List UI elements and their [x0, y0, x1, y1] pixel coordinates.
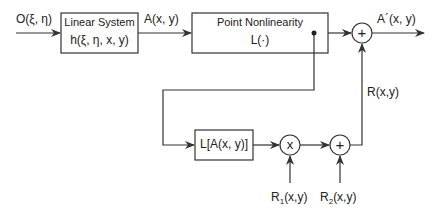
r1-base: R: [271, 190, 280, 204]
linear-system-title: Linear System: [61, 16, 138, 29]
r-feedback-arrow: [350, 44, 362, 145]
intermediate-label: A(x, y): [144, 12, 179, 26]
r2-args: (x,y): [333, 190, 356, 204]
point-nonlinearity-title: Point Nonlinearity: [192, 16, 328, 29]
r1-args: (x,y): [284, 190, 307, 204]
r2-label: R2(x,y): [320, 190, 356, 209]
output-label: A´(x, y): [377, 12, 416, 26]
feedback-box-title: L[A(x, y)]: [195, 138, 253, 151]
point-nonlinearity-subtitle: L(·): [192, 34, 328, 47]
r1-label: R1(x,y): [271, 190, 307, 209]
r2-base: R: [320, 190, 329, 204]
input-label: O(ξ, η): [16, 12, 52, 26]
r-label: R(x,y): [367, 85, 399, 99]
sum-symbol-top: +: [352, 25, 372, 41]
multiply-symbol: x: [280, 137, 300, 152]
linear-system-subtitle: h(ξ, η, x, y): [61, 34, 138, 47]
sum-symbol-bottom: +: [330, 137, 350, 153]
block-diagram-canvas: [0, 0, 438, 218]
